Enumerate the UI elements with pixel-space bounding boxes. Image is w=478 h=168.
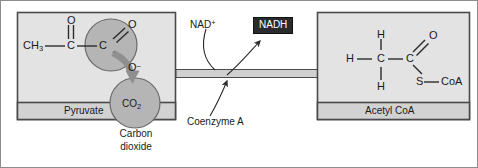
nadh-label-chip: NADH [253, 17, 293, 34]
atom-label-coa: CoA [441, 76, 462, 87]
coenzyme-a-label: Coenzyme A [187, 117, 244, 127]
atom-label-acetyl-carbonyl-carbon: C [406, 53, 414, 64]
atom-label-methyl: CH3 [23, 40, 43, 53]
right-panel-acetyl-coa [318, 13, 470, 120]
atom-label-h-left: H [346, 53, 354, 64]
atom-label-carboxyl-carbon: C [99, 40, 107, 51]
atom-label-methyl-carbon: C [377, 53, 385, 64]
atom-label-sulfur: S [416, 76, 423, 87]
pyruvate-oxidation-diagram: CH3 O C C O O– CO2 Pyruvate Carbondioxid… [0, 0, 478, 168]
atom-label-carbonyl-oxygen: O [67, 15, 76, 26]
nad-plus-label: NAD+ [190, 19, 216, 30]
atom-label-h-bottom: H [377, 81, 385, 92]
atom-label-carbonyl-carbon: C [67, 40, 75, 51]
pyruvate-caption: Pyruvate [64, 106, 103, 116]
atom-label-carboxyl-oxygen-anion: O– [128, 62, 141, 73]
acetyl-coa-caption: Acetyl CoA [365, 106, 414, 116]
atom-label-carboxyl-oxygen-double: O [128, 19, 137, 30]
diagram-graphics-layer [1, 1, 478, 168]
atom-label-acetyl-carbonyl-oxygen: O [429, 30, 438, 41]
atom-label-h-top: H [377, 29, 385, 40]
co2-circle-label: CO2 [122, 98, 141, 111]
carbon-dioxide-caption: Carbondioxide [110, 128, 162, 153]
coenzyme-a-input-curve [210, 81, 227, 116]
nad-plus-input-curve [203, 29, 215, 70]
